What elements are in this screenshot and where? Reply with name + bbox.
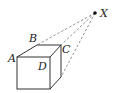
label-c: C	[62, 43, 71, 56]
cube-diagram: X B C A D	[0, 0, 116, 93]
point-x-marker	[93, 11, 97, 15]
cube-edge-top-right	[50, 45, 61, 57]
label-a: A	[7, 52, 16, 65]
cube-edge-top-left	[17, 45, 37, 57]
label-b: B	[28, 32, 37, 45]
label-x: X	[99, 7, 109, 20]
label-d: D	[37, 60, 47, 73]
cube-edge-bottom-right	[50, 77, 61, 89]
